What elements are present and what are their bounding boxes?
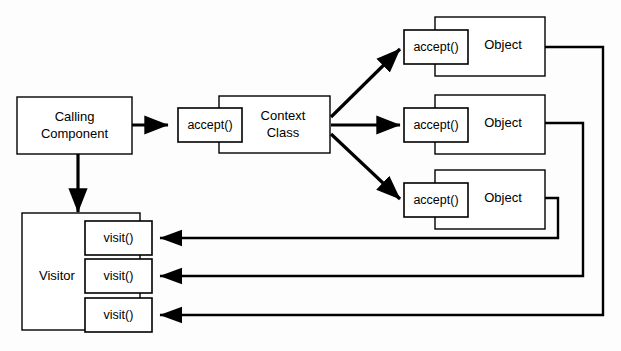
object-label-1: Object: [484, 37, 522, 52]
calling-component-label-line2: Component: [41, 126, 109, 141]
visitor-visit-label-2: visit(): [104, 269, 134, 283]
flow-context-to-object3: [331, 134, 400, 199]
object-node-2: Object accept(): [404, 95, 545, 154]
diagram-canvas: Calling Component Context Class accept(): [0, 0, 621, 351]
object-node-3: Object accept(): [404, 170, 545, 229]
visitor-label: Visitor: [39, 268, 76, 283]
object-label-3: Object: [484, 190, 522, 205]
context-class-node: Context Class accept(): [178, 96, 330, 153]
calling-component-label-line1: Calling: [55, 109, 95, 124]
flow-context-to-object1: [331, 49, 400, 117]
context-class-label-line2: Class: [267, 125, 300, 140]
visitor-visit-label-1: visit(): [104, 231, 134, 245]
context-class-label-line1: Context: [261, 108, 306, 123]
object-label-2: Object: [484, 115, 522, 130]
object-accept-label-3: accept(): [413, 193, 458, 207]
visitor-visit-label-3: visit(): [104, 308, 134, 322]
calling-component-node: Calling Component: [17, 97, 132, 154]
object-accept-label-1: accept(): [413, 40, 458, 54]
context-accept-label: accept(): [187, 118, 232, 132]
object-accept-label-2: accept(): [413, 118, 458, 132]
visitor-node: Visitor visit() visit() visit(): [22, 213, 152, 332]
object-node-1: Object accept(): [404, 17, 545, 76]
visitor-pattern-diagram: Calling Component Context Class accept(): [0, 0, 621, 351]
